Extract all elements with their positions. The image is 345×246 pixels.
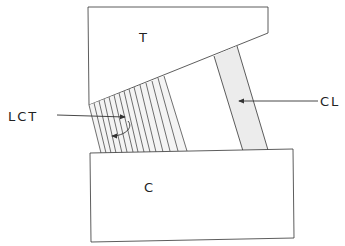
cl-label: CL xyxy=(320,94,340,109)
cl-band xyxy=(214,46,268,151)
bottom-block: C xyxy=(90,149,294,242)
top-block-label: T xyxy=(138,30,149,45)
diagram: T C LCT CL xyxy=(0,0,345,246)
bottom-block-label: C xyxy=(144,180,155,195)
lct-label: LCT xyxy=(8,109,38,124)
